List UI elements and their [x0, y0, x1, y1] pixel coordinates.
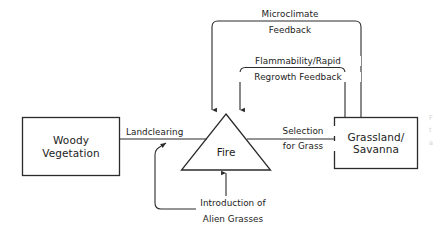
edge-flammability-regrowth-feedback-line1: Flammability/Rapid — [255, 56, 341, 66]
edge-microclimate-feedback-label: Microclimate — [238, 9, 342, 19]
margin-note-line3: a — [429, 137, 445, 149]
edge-flammability-regrowth-feedback-label: Flammability/Rapid — [235, 56, 361, 66]
node-alien-grasses-line2: Alien Grasses — [203, 214, 263, 224]
node-fire-label: Fire — [196, 146, 256, 158]
node-fire-shape — [182, 114, 271, 170]
node-woody-vegetation-line1: Woody — [53, 134, 89, 146]
edge-microclimate-feedback-line2: Feedback — [269, 25, 311, 35]
node-alien-grasses-line1: Introduction of — [200, 198, 265, 208]
edge-selection-for-grass-line1: Selection — [283, 126, 324, 136]
margin-note-line2: t — [429, 124, 445, 136]
edge-microclimate-feedback-line — [212, 21, 361, 118]
margin-note-line1: F — [429, 112, 445, 124]
margin-note: F t a — [429, 112, 445, 149]
edge-selection-for-grass-label-2: for Grass — [270, 141, 336, 151]
node-woody-vegetation-label: Woody Vegetation — [42, 134, 100, 158]
node-grassland-savanna-line2: Savanna — [353, 143, 399, 155]
node-grassland-savanna-label: Grassland/ Savanna — [347, 131, 404, 155]
edge-landclearing-line1: Landclearing — [126, 127, 183, 137]
node-grassland-savanna: Grassland/ Savanna — [334, 117, 418, 169]
edge-selection-for-grass-label: Selection — [270, 126, 336, 136]
node-fire-line1: Fire — [217, 146, 236, 158]
edge-flammability-regrowth-feedback-label-2: Regrowth Feedback — [235, 72, 361, 82]
edge-microclimate-feedback-line1: Microclimate — [262, 9, 319, 19]
node-woody-vegetation-line2: Vegetation — [42, 147, 100, 159]
diagram-canvas: Woody Vegetation Grassland/ Savanna Fire… — [0, 0, 445, 239]
node-alien-grasses-label-2: Alien Grasses — [186, 214, 280, 224]
edge-flammability-regrowth-feedback-line2: Regrowth Feedback — [254, 72, 341, 82]
node-woody-vegetation: Woody Vegetation — [22, 117, 120, 176]
edge-microclimate-feedback-label-2: Feedback — [238, 25, 342, 35]
edge-landclearing-label: Landclearing — [124, 127, 200, 137]
node-grassland-savanna-line1: Grassland/ — [347, 131, 404, 143]
node-alien-grasses-label: Introduction of — [186, 198, 280, 208]
edge-selection-for-grass-line2: for Grass — [283, 141, 323, 151]
